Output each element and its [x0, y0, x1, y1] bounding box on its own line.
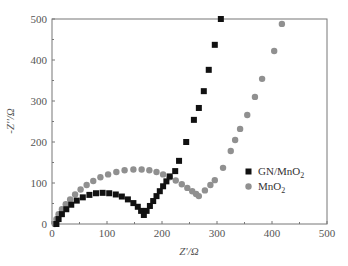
data-point — [271, 48, 277, 54]
data-point — [220, 165, 226, 171]
data-point — [172, 168, 178, 174]
data-point — [259, 76, 265, 82]
data-point — [252, 94, 258, 100]
x-tick-label: 100 — [99, 227, 116, 239]
legend: GN/MnO2 MnO2 — [245, 165, 304, 195]
data-point — [125, 196, 131, 202]
data-point — [119, 194, 125, 200]
data-point — [191, 117, 197, 123]
data-point — [113, 169, 119, 175]
x-tick-label: 300 — [209, 227, 226, 239]
data-point — [212, 42, 218, 48]
x-tick-label: 200 — [154, 227, 171, 239]
data-point — [179, 181, 185, 187]
data-point — [93, 190, 99, 196]
data-point — [212, 177, 218, 183]
data-point — [207, 182, 213, 188]
data-point — [130, 166, 136, 172]
data-point — [176, 158, 182, 164]
x-tick-label: 400 — [264, 227, 281, 239]
data-point — [206, 67, 212, 73]
data-point — [167, 173, 173, 179]
y-axis-label: -Z''/Ω — [4, 108, 16, 134]
data-point — [196, 193, 202, 199]
data-point — [153, 169, 159, 175]
legend-marker-circle — [245, 183, 251, 189]
data-point — [121, 167, 127, 173]
data-point — [237, 126, 243, 132]
data-point — [68, 202, 74, 208]
data-point — [106, 190, 112, 196]
data-point — [201, 88, 207, 94]
data-point — [146, 167, 152, 173]
data-point — [196, 105, 202, 111]
data-point — [183, 139, 189, 145]
y-tick-label: 500 — [31, 13, 48, 25]
x-axis-label: Z'/Ω — [179, 245, 199, 257]
data-point — [83, 182, 89, 188]
y-tick-label: 400 — [31, 54, 48, 66]
legend-label-mno2: MnO2 — [258, 180, 285, 195]
data-point — [67, 196, 73, 202]
data-point — [218, 16, 224, 22]
legend-label-gn-mno2: GN/MnO2 — [258, 165, 304, 180]
data-point — [90, 178, 96, 184]
x-tick-label: 0 — [49, 227, 55, 239]
data-point — [80, 194, 86, 200]
data-point — [173, 177, 179, 183]
y-tick-label: 300 — [31, 95, 48, 107]
data-point — [279, 21, 285, 27]
y-tick-label: 0 — [42, 218, 48, 230]
data-point — [160, 171, 166, 177]
legend-marker-square — [246, 169, 252, 175]
data-point — [72, 191, 78, 197]
y-axis-ticks: 0100200300400500 — [31, 13, 56, 230]
y-tick-label: 100 — [31, 177, 48, 189]
data-point — [86, 192, 92, 198]
nyquist-chart: 0100200300400500 0100200300400500 Z'/Ω -… — [0, 0, 348, 266]
data-point — [97, 174, 103, 180]
data-point — [77, 186, 83, 192]
data-point — [138, 166, 144, 172]
data-point — [228, 148, 234, 154]
y-tick-label: 200 — [31, 136, 48, 148]
data-point — [100, 190, 106, 196]
data-point — [232, 137, 238, 143]
data-point — [113, 191, 119, 197]
data-point — [202, 187, 208, 193]
data-point — [74, 198, 80, 204]
x-tick-label: 500 — [319, 227, 336, 239]
data-point — [105, 171, 111, 177]
data-point — [244, 112, 250, 118]
